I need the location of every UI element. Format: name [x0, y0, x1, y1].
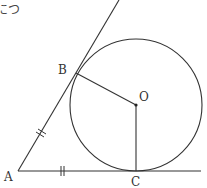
diagram-svg: につ B O C A [0, 0, 207, 188]
label-b: B [58, 63, 67, 77]
radius-ob [76, 73, 136, 105]
center-point-o [134, 103, 137, 106]
label-a: A [3, 170, 13, 184]
caption-fragment: につ [0, 3, 20, 17]
geometry-diagram: につ B O C A [0, 0, 207, 188]
label-c: C [131, 175, 140, 188]
line-ab [18, 0, 119, 171]
label-o: O [139, 90, 149, 104]
